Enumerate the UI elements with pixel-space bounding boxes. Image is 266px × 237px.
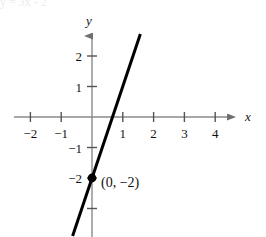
data-point-marker — [88, 174, 97, 183]
coordinate-plane — [0, 0, 266, 237]
graph-figure: y = 3x - 2 −2−11234 21−1−2 (0, −2) x y — [0, 0, 266, 237]
y-tick-label: −1 — [56, 142, 82, 155]
data-point-label: (0, −2) — [101, 176, 139, 190]
x-tick-label: −2 — [18, 127, 42, 140]
x-tick-label: 3 — [172, 127, 196, 140]
x-tick-label: 1 — [111, 127, 135, 140]
y-tick-label: −2 — [56, 172, 82, 185]
y-axis-label: y — [86, 14, 92, 27]
x-axis-label: x — [245, 110, 251, 123]
y-tick-label: 1 — [56, 81, 82, 94]
plotted-points-group — [88, 174, 97, 183]
x-tick-label: −1 — [49, 127, 73, 140]
x-tick-label: 2 — [142, 127, 166, 140]
y-tick-label: 2 — [56, 50, 82, 63]
x-tick-label: 4 — [203, 127, 227, 140]
